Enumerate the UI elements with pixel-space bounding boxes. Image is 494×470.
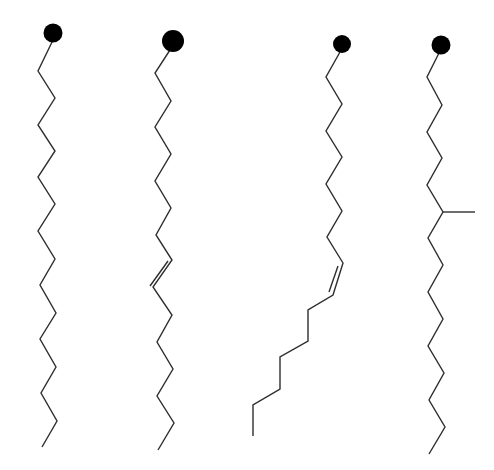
trans-unsaturated-chain-molecule [150, 30, 184, 450]
double-bond-line [150, 261, 168, 286]
polar-head-circle [333, 35, 351, 53]
diagram-svg [0, 0, 494, 470]
cis-unsaturated-chain-molecule [253, 35, 351, 436]
saturated-chain-molecule [38, 24, 63, 448]
branched-chain-molecule [427, 36, 475, 455]
carbon-chain-line [153, 50, 174, 450]
polar-head-circle [162, 30, 184, 52]
carbon-chain-line [38, 40, 57, 447]
polar-head-circle [432, 36, 451, 55]
fatty-acid-diagram [0, 0, 494, 470]
polar-head-circle [44, 24, 63, 43]
carbon-chain-line [427, 53, 445, 454]
double-bond-line [329, 266, 338, 292]
carbon-chain-line [253, 52, 343, 436]
